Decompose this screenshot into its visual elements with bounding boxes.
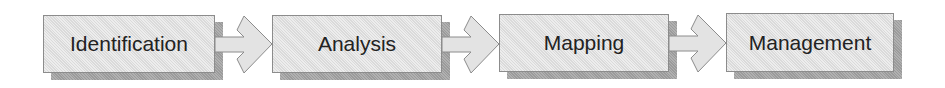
step-label: Identification: [70, 32, 188, 56]
right-arrow-icon: [441, 15, 501, 75]
right-arrow-icon: [214, 15, 274, 75]
step-analysis: Analysis: [272, 15, 442, 73]
step-mapping: Mapping: [499, 14, 669, 72]
right-arrow-icon: [668, 14, 728, 74]
step-label: Management: [749, 31, 872, 55]
step-label: Analysis: [318, 32, 396, 56]
process-flow-diagram: Identification Analysis Mapping Manageme…: [0, 0, 945, 88]
step-identification: Identification: [43, 15, 215, 73]
step-label: Mapping: [544, 31, 625, 55]
step-management: Management: [726, 13, 894, 72]
